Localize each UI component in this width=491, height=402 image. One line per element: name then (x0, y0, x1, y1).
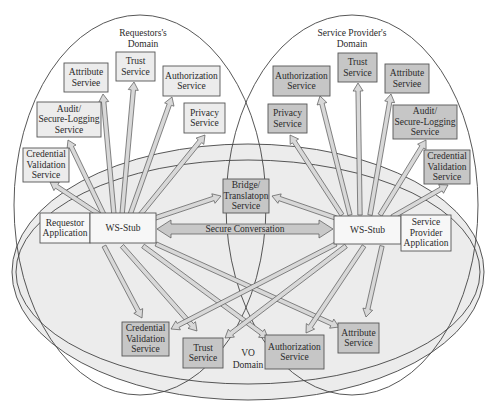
prov-trust-service-box: TrustService (338, 53, 377, 82)
req-credential-validation-service-box-label: Validation (26, 160, 65, 170)
vo-authorization-service-box-label: Authorization (268, 342, 321, 352)
req-trust-service-box-label: Service (121, 67, 150, 77)
vo-credential-validation-service-box-label: Credential (126, 323, 166, 333)
prov-attribute-service-box: AttributeServiee (385, 64, 429, 93)
prov-authorization-service-box: AuthorizationService (273, 66, 330, 96)
req-audit-logging-service-box: Audit/Secure-LoggingService (37, 102, 101, 137)
requestor-application-box-label: Application (43, 228, 88, 238)
vo-credential-validation-service-box-label: Service (131, 344, 160, 354)
prov-attribute-service-box-label: Serviee (393, 79, 422, 89)
req-audit-logging-service-box-label: Audit/ (57, 104, 82, 114)
prov-audit-logging-service-box: Audit/Secure-LoggingService (393, 105, 457, 139)
req-authorization-service-box-label: Service (177, 81, 206, 91)
prov-audit-logging-service-box-label: Service (411, 127, 440, 137)
prov-credential-validation-service-box: CredentialValidationService (424, 150, 470, 184)
secure-conversation-label: Secure Conversation (206, 224, 285, 234)
prov-attribute-service-box-label: Attribute (390, 68, 424, 78)
vo-bridge-translation-service-box-label: Translatopn (223, 191, 268, 201)
req-privacy-service-box-label: Privacy (190, 108, 219, 118)
vo-credential-validation-service-box: CredentialValidationService (122, 322, 169, 356)
prov-authorization-service-box-label: Service (287, 81, 316, 91)
req-authorization-service-box-label: Authorization (165, 71, 218, 81)
vo-attribute-service-box-label: Service (344, 338, 373, 348)
provider-domain-label: Service Provider's (318, 28, 387, 38)
req-authorization-service-box: AuthorizationService (163, 66, 220, 96)
requestor-application-box-label: Requestor (46, 218, 85, 228)
requestor-domain-label-2: Domain (128, 39, 159, 49)
provider-ws-stub-box-label: WS-Stub (350, 225, 385, 235)
req-audit-logging-service-box-label: Service (55, 125, 84, 135)
vo-trust-service-box-label: Trust (193, 343, 213, 353)
prov-credential-validation-service-box-label: Validation (427, 162, 466, 172)
prov-trust-service-box-label: Service (343, 68, 372, 78)
prov-privacy-service-box-label: Privacy (273, 108, 302, 118)
vo-bridge-translation-service-box: Bridge/TranslatopnService (223, 179, 269, 213)
provider-application-box-label: Service (412, 217, 441, 227)
prov-trust-service-box-label: Trust (348, 57, 368, 67)
prov-audit-logging-service-box-label: Audit/ (413, 106, 438, 116)
req-credential-validation-service-box: CredentialValidationService (23, 148, 69, 182)
requestor-application-box: RequestorApplication (40, 213, 90, 243)
ws-security-architecture-diagram: Requestors's Domain Service Provider's D… (0, 0, 491, 402)
req-privacy-service-box: PrivacyService (184, 103, 225, 133)
vo-credential-validation-service-box-label: Validation (126, 334, 165, 344)
provider-application-box: ServiceProviderApplication (401, 215, 451, 251)
prov-audit-logging-service-box-label: Secure-Logging (394, 117, 455, 127)
vo-authorization-service-box-label: Service (280, 352, 309, 362)
vo-domain-label-2: Domain (233, 360, 264, 370)
req-trust-service-box-label: Trust (126, 56, 146, 66)
vo-domain-label: VO (241, 348, 255, 358)
vo-trust-service-box: TrustService (183, 338, 223, 368)
prov-authorization-service-box-label: Authorization (275, 71, 328, 81)
provider-application-box-label: Application (404, 238, 449, 248)
requestor-ws-stub-box: WS-Stub (90, 213, 156, 243)
req-attribute-service-box: AttributeServiee (64, 63, 108, 92)
prov-privacy-service-box: PrivacyService (268, 104, 307, 133)
vo-bridge-translation-service-box-label: Bridge/ (232, 180, 261, 190)
req-attribute-service-box-label: Serviee (72, 78, 101, 88)
provider-ws-stub-box: WS-Stub (334, 216, 401, 244)
requestor-domain-label: Requestors's (119, 28, 167, 38)
prov-privacy-service-box-label: Service (273, 119, 302, 129)
prov-credential-validation-service-box-label: Service (433, 172, 462, 182)
vo-authorization-service-box: AuthorizationService (265, 335, 324, 369)
provider-application-box-label: Provider (410, 228, 444, 238)
req-trust-service-box: TrustService (116, 52, 155, 81)
provider-domain-label-2: Domain (337, 39, 368, 49)
vo-bridge-translation-service-box-label: Service (232, 201, 261, 211)
vo-attribute-service-box-label: Attribute (341, 328, 375, 338)
req-credential-validation-service-box-label: Service (32, 170, 61, 180)
req-credential-validation-service-box-label: Credential (26, 149, 66, 159)
prov-credential-validation-service-box-label: Credential (427, 151, 467, 161)
req-privacy-service-box-label: Service (190, 118, 219, 128)
req-audit-logging-service-box-label: Secure-Logging (38, 114, 99, 124)
requestor-ws-stub-box-label: WS-Stub (106, 223, 141, 233)
vo-trust-service-box-label: Service (189, 353, 218, 363)
req-attribute-service-box-label: Attribute (69, 67, 103, 77)
vo-attribute-service-box: AttributeService (338, 323, 379, 353)
